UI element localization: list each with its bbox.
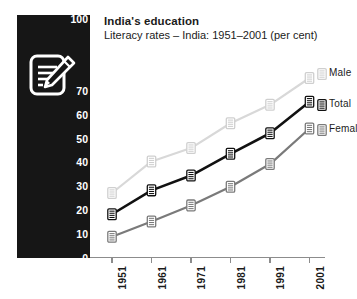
- series-line-male: [112, 78, 310, 193]
- legend-item-male[interactable]: Male: [316, 67, 351, 78]
- data-point-marker: [147, 156, 155, 167]
- data-point-marker: [266, 159, 274, 170]
- x-axis-label-1971: 1971: [196, 266, 207, 289]
- y-axis-tick-10: 10: [76, 229, 88, 239]
- x-axis-label-2001: 2001: [315, 266, 326, 289]
- x-axis-label-1991: 1991: [275, 266, 286, 289]
- legend-item-total[interactable]: Total: [316, 98, 351, 109]
- data-point-marker: [108, 231, 116, 242]
- legend-label: Total: [329, 98, 351, 109]
- y-axis-tick-60: 60: [76, 110, 88, 120]
- y-axis-tick-50: 50: [76, 134, 88, 144]
- y-axis-tick-30: 30: [76, 181, 88, 191]
- legend-label: Female: [329, 123, 357, 134]
- data-point-marker: [226, 181, 234, 192]
- x-axis-tick: [309, 257, 310, 263]
- x-axis-line: [90, 257, 325, 258]
- data-point-marker: [187, 143, 195, 154]
- data-point-marker: [305, 123, 313, 134]
- x-axis-label-1961: 1961: [157, 266, 168, 289]
- y-axis-tick-70: 70: [76, 86, 88, 96]
- x-axis-tick: [269, 257, 270, 263]
- legend-label: Male: [329, 67, 351, 78]
- dark-side-panel: 100 90 80 70 60 50 40 30 20 10 0: [17, 15, 90, 258]
- data-point-marker: [226, 148, 234, 159]
- data-point-marker: [305, 73, 313, 84]
- x-axis-label-1981: 1981: [236, 266, 247, 289]
- series-line-female: [112, 128, 310, 236]
- x-axis-tick: [111, 257, 112, 263]
- data-point-marker: [187, 200, 195, 211]
- notepad-pencil-icon: [26, 51, 78, 99]
- plot-area: [90, 15, 325, 258]
- series-line-total: [112, 102, 310, 215]
- x-axis-tick: [151, 257, 152, 263]
- data-point-marker: [108, 188, 116, 199]
- data-point-marker: [266, 128, 274, 139]
- chart-figure: 100 90 80 70 60 50 40 30 20 10 0 India's…: [0, 0, 357, 299]
- y-axis-tick-40: 40: [76, 157, 88, 167]
- data-point-marker: [147, 185, 155, 196]
- notepad-marker-icon: [316, 98, 328, 112]
- notepad-marker-icon: [316, 67, 328, 81]
- y-axis-tick-0: 0: [82, 253, 88, 263]
- y-axis-tick-100: 100: [70, 14, 88, 24]
- data-point-marker: [305, 96, 313, 107]
- data-point-marker: [226, 118, 234, 129]
- x-axis-tick: [190, 257, 191, 263]
- data-point-marker: [147, 216, 155, 227]
- data-point-marker: [266, 99, 274, 110]
- data-point-marker: [187, 170, 195, 181]
- y-axis-tick-20: 20: [76, 205, 88, 215]
- data-point-marker: [108, 209, 116, 220]
- x-axis-label-1951: 1951: [117, 266, 128, 289]
- legend-item-female[interactable]: Female: [316, 123, 357, 134]
- notepad-marker-icon: [316, 123, 328, 137]
- x-axis-tick: [230, 257, 231, 263]
